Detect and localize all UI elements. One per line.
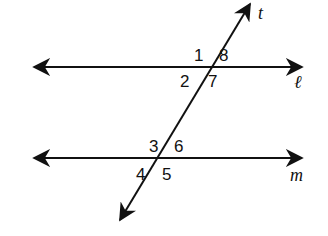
- angle-2: 2: [180, 72, 189, 91]
- angle-3: 3: [149, 137, 158, 156]
- label-l: ℓ: [294, 72, 302, 92]
- parallel-lines-diagram: t ℓ m 1 8 2 7 3 6 4 5: [0, 0, 328, 236]
- label-m: m: [290, 165, 303, 185]
- angle-5: 5: [162, 165, 171, 184]
- angle-1: 1: [194, 46, 203, 65]
- angle-7: 7: [208, 72, 217, 91]
- transversal-t: [120, 4, 250, 220]
- label-t: t: [258, 3, 264, 23]
- angle-4: 4: [136, 165, 145, 184]
- angle-8: 8: [219, 46, 228, 65]
- angle-6: 6: [174, 137, 183, 156]
